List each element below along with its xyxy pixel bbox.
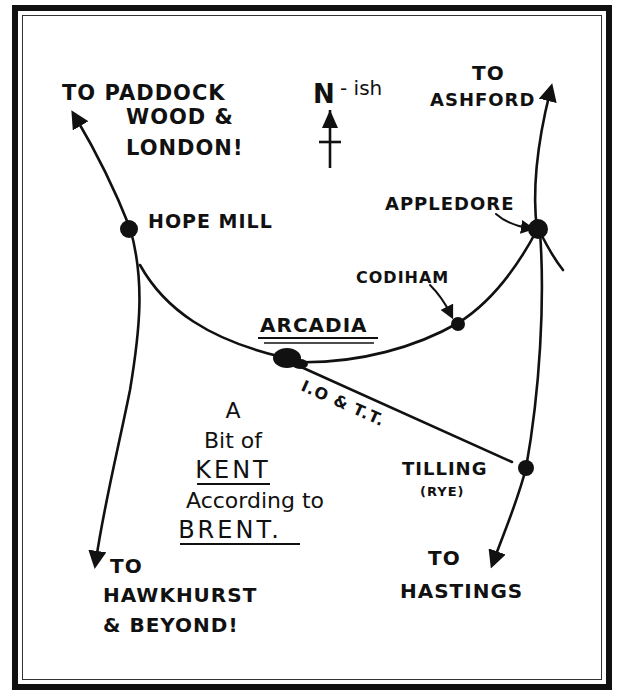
- nodes: [120, 219, 548, 476]
- destination-ashford: TO ASHFORD: [430, 61, 535, 110]
- map-canvas: N - ish TO PADDOCK WOOD & LONDON! TO ASH…: [0, 0, 621, 697]
- compass-suffix: - ish: [340, 76, 382, 100]
- svg-text:ASHFORD: ASHFORD: [430, 89, 535, 110]
- svg-text:TO: TO: [110, 554, 143, 578]
- place-arcadia: ARCADIA: [258, 313, 378, 343]
- place-codiham: CODIHAM: [356, 268, 449, 287]
- svg-text:BRENT.: BRENT.: [178, 516, 282, 544]
- svg-text:WOOD &: WOOD &: [126, 105, 234, 129]
- place-hope-mill: HOPE MILL: [148, 210, 273, 232]
- svg-text:TO PADDOCK: TO PADDOCK: [62, 81, 226, 105]
- svg-text:LONDON!: LONDON!: [126, 136, 244, 160]
- road-appledore-tilling: [526, 232, 542, 468]
- codiham-pointer: [430, 285, 450, 313]
- hope-mill-node[interactable]: [120, 220, 138, 238]
- svg-text:A: A: [225, 398, 240, 423]
- svg-text:Bit of: Bit of: [204, 428, 263, 453]
- compass-n-label: N: [313, 79, 336, 109]
- place-tilling: TILLING: [402, 458, 487, 479]
- appledore-node[interactable]: [528, 219, 548, 239]
- arcadia-node-tail: [292, 359, 308, 369]
- place-tilling-alt: (RYE): [420, 484, 464, 499]
- road-to-hastings: [494, 468, 526, 560]
- road-appledore-spur: [540, 232, 563, 270]
- svg-text:TO: TO: [428, 546, 461, 570]
- road-to-paddock-wood: [76, 118, 130, 228]
- road-to-ashford: [535, 92, 550, 230]
- svg-text:KENT: KENT: [195, 456, 271, 484]
- svg-text:HASTINGS: HASTINGS: [400, 579, 523, 603]
- svg-text:HAWKHURST: HAWKHURST: [103, 583, 257, 607]
- svg-text:ARCADIA: ARCADIA: [260, 313, 368, 337]
- destination-hawkhurst: TO HAWKHURST & BEYOND!: [103, 554, 257, 637]
- road-arcadia-tilling: [290, 362, 512, 462]
- svg-text:According to: According to: [186, 488, 324, 513]
- road-hope-mill-arcadia: [140, 265, 282, 357]
- svg-text:& BEYOND!: & BEYOND!: [103, 613, 239, 637]
- destination-hastings: TO HASTINGS: [400, 546, 523, 603]
- place-appledore: APPLEDORE: [385, 193, 514, 214]
- tilling-node[interactable]: [518, 460, 534, 476]
- destination-paddock-wood: TO PADDOCK WOOD & LONDON!: [62, 81, 244, 160]
- compass: N - ish: [313, 76, 382, 168]
- codiham-node[interactable]: [451, 317, 465, 331]
- appledore-pointer: [496, 214, 528, 228]
- road-to-hawkhurst: [96, 228, 139, 560]
- road-label-io-tt: I.O & T.T.: [298, 376, 388, 430]
- map-title: A Bit of KENT According to BRENT.: [178, 398, 324, 544]
- svg-text:TO: TO: [472, 61, 505, 85]
